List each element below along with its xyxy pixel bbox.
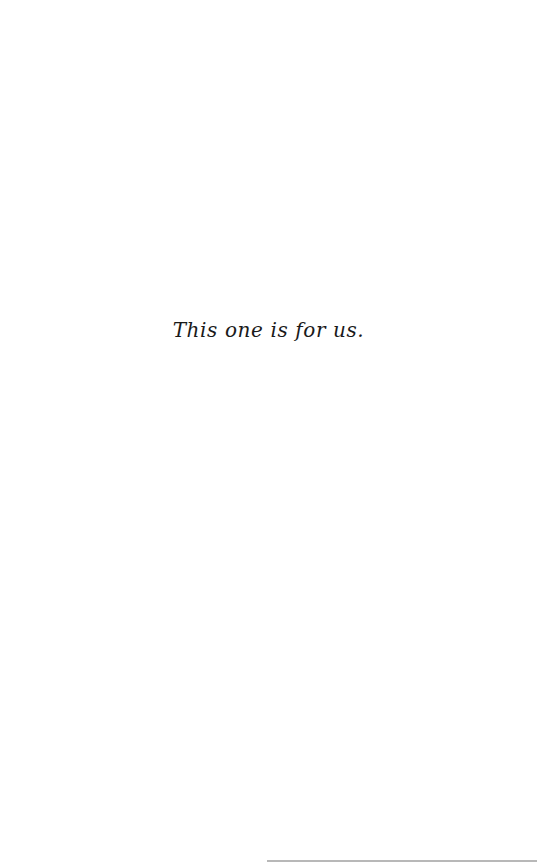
page-edge-line: [267, 860, 537, 862]
book-page: This one is for us.: [0, 0, 537, 863]
dedication-text: This one is for us.: [0, 318, 537, 342]
